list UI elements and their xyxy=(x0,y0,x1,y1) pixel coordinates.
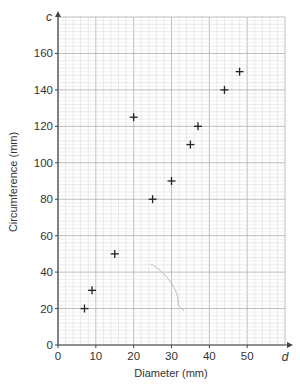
x-tick-label: 50 xyxy=(241,350,254,362)
x-tick-label: 0 xyxy=(55,350,61,362)
y-tick-label: 40 xyxy=(40,266,53,278)
y-tick-label: 0 xyxy=(47,339,53,351)
y-tick-label: 120 xyxy=(34,120,53,132)
data-point-plus-icon xyxy=(111,250,119,258)
data-point-plus-icon xyxy=(88,286,96,294)
y-tick-label: 140 xyxy=(34,84,53,96)
data-point-plus-icon xyxy=(236,68,244,76)
data-point-plus-icon xyxy=(220,86,228,94)
data-point-plus-icon xyxy=(186,141,194,149)
data-point-plus-icon xyxy=(168,177,176,185)
y-axis-arrow-icon xyxy=(55,11,61,17)
x-axis-variable: d xyxy=(282,350,289,364)
data-point-plus-icon xyxy=(149,195,157,203)
data-point-plus-icon xyxy=(130,113,138,121)
x-tick-label: 40 xyxy=(203,350,216,362)
y-axis-label: Circumference (mm) xyxy=(7,132,19,232)
data-point-plus-icon xyxy=(194,122,202,130)
x-tick-label: 30 xyxy=(165,350,178,362)
x-tick-label: 10 xyxy=(89,350,102,362)
y-tick-label: 80 xyxy=(40,193,53,205)
y-tick-label: 60 xyxy=(40,230,53,242)
x-axis-label: Diameter (mm) xyxy=(134,367,207,379)
tick-labels: 01020304050020406080100120140160 xyxy=(34,47,254,362)
y-axis-variable: c xyxy=(46,10,52,24)
y-tick-label: 160 xyxy=(34,47,53,59)
data-point-plus-icon xyxy=(80,305,88,313)
x-tick-label: 20 xyxy=(127,350,140,362)
scatter-chart: 01020304050020406080100120140160 Diamete… xyxy=(0,0,300,388)
y-tick-label: 100 xyxy=(34,157,53,169)
y-tick-label: 20 xyxy=(40,303,53,315)
x-axis-arrow-icon xyxy=(287,342,293,348)
